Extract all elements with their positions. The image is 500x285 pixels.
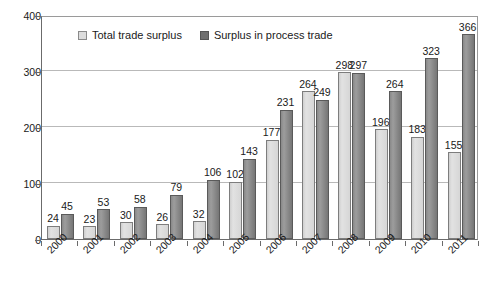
- bar-group-2004: 32106: [190, 15, 226, 239]
- legend-label-surplus-in-process-trade: Surplus in process trade: [214, 30, 333, 41]
- x-tick-mark-7: [296, 241, 297, 246]
- bar-2006-total[interactable]: [266, 140, 279, 239]
- legend-label-total-trade-surplus: Total trade surplus: [92, 30, 182, 41]
- chart-legend: Total trade surplus Surplus in process t…: [78, 30, 333, 41]
- bar-2009-process[interactable]: [389, 91, 402, 239]
- bar-2008-total[interactable]: [338, 72, 351, 239]
- bar-2010-process[interactable]: [425, 58, 438, 239]
- bar-group-2007: 264249: [299, 15, 335, 239]
- x-tick-mark-2: [114, 241, 115, 246]
- light-square-icon: [78, 31, 87, 40]
- bar-value-2007-process: 249: [307, 87, 337, 98]
- x-tick-mark-12: [478, 241, 479, 246]
- bar-2004-process[interactable]: [207, 180, 220, 239]
- bar-2009-total[interactable]: [375, 129, 388, 239]
- x-tick-mark-4: [187, 241, 188, 246]
- bar-2008-process[interactable]: [352, 73, 365, 239]
- bar-group-2011: 155366: [445, 15, 481, 239]
- x-tick-mark-1: [77, 241, 78, 246]
- plot-area: 2445235330582679321061021431772312642492…: [41, 16, 478, 240]
- grouped-bar-chart: 2445235330582679321061021431772312642492…: [0, 0, 500, 285]
- bar-2005-total[interactable]: [229, 182, 242, 239]
- bar-2011-total[interactable]: [448, 152, 461, 239]
- bar-value-2001-process: 53: [88, 197, 118, 208]
- bar-value-2010-process: 323: [416, 46, 446, 57]
- x-tick-mark-8: [332, 241, 333, 246]
- bar-group-2006: 177231: [263, 15, 299, 239]
- y-tick-mark-300: [35, 72, 41, 73]
- bar-2005-process[interactable]: [243, 159, 256, 239]
- bar-2007-process[interactable]: [316, 100, 329, 239]
- bar-group-2000: 2445: [44, 15, 80, 239]
- bar-value-2003-process: 79: [161, 182, 191, 193]
- bar-group-2002: 3058: [117, 15, 153, 239]
- bar-value-2009-process: 264: [380, 79, 410, 90]
- x-tick-mark-0: [41, 241, 42, 246]
- bar-group-2010: 183323: [408, 15, 444, 239]
- bar-group-2003: 2679: [153, 15, 189, 239]
- bar-2010-total[interactable]: [411, 137, 424, 239]
- bar-group-2001: 2353: [80, 15, 116, 239]
- x-tick-mark-11: [442, 241, 443, 246]
- bar-value-2000-process: 45: [52, 201, 82, 212]
- y-axis: 0100200300400: [0, 0, 41, 285]
- x-tick-mark-6: [260, 241, 261, 246]
- bar-2006-process[interactable]: [280, 110, 293, 239]
- x-tick-mark-3: [150, 241, 151, 246]
- dark-square-icon: [200, 31, 209, 40]
- x-tick-mark-5: [223, 241, 224, 246]
- legend-entry-total-trade-surplus: Total trade surplus: [78, 30, 182, 41]
- bar-value-2005-process: 143: [234, 146, 264, 157]
- y-tick-mark-100: [35, 184, 41, 185]
- bar-value-2006-process: 231: [271, 97, 301, 108]
- x-tick-mark-10: [405, 241, 406, 246]
- bar-value-2008-process: 297: [343, 60, 373, 71]
- y-tick-mark-400: [35, 16, 41, 17]
- bar-2007-total[interactable]: [302, 91, 315, 239]
- bar-value-2011-process: 366: [453, 22, 483, 33]
- bar-2011-process[interactable]: [462, 34, 475, 239]
- x-tick-mark-9: [369, 241, 370, 246]
- bar-value-2002-process: 58: [125, 194, 155, 205]
- legend-entry-surplus-in-process-trade: Surplus in process trade: [200, 30, 333, 41]
- y-tick-mark-200: [35, 128, 41, 129]
